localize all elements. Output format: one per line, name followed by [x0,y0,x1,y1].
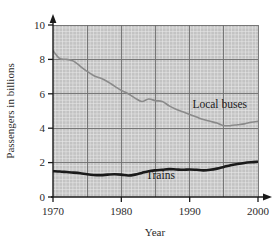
y-axis-tick-labels: 0246810 [34,19,46,203]
y-tick-label: 0 [40,191,46,203]
y-tick-label: 10 [34,19,46,31]
x-axis-ticks [53,197,258,202]
y-axis-ticks [48,25,53,197]
x-tick-label: 1980 [110,205,133,217]
chart-figure: 0246810 1970198019902000 Year Passengers… [0,0,279,243]
y-axis-title: Passengers in billions [4,63,16,158]
x-tick-label: 1970 [42,205,65,217]
x-axis-tick-labels: 1970198019902000 [42,205,270,217]
y-tick-label: 4 [40,122,46,134]
series-annotation-local-buses: Local buses [192,98,247,110]
y-tick-label: 2 [40,156,46,168]
x-axis-title: Year [145,226,166,238]
y-tick-label: 6 [40,88,46,100]
passenger-trends-line-chart: 0246810 1970198019902000 Year Passengers… [0,0,279,243]
x-tick-label: 2000 [247,205,270,217]
y-axis-arrow-icon [50,14,57,23]
x-axis-arrow-icon [263,194,272,201]
y-tick-label: 8 [40,53,46,65]
x-tick-label: 1990 [179,205,202,217]
series-annotation-trains: Trains [146,169,175,181]
